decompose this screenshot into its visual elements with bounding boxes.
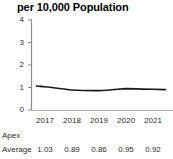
average-value-2019: 0.86 [85,143,113,156]
average-value-2020: 0.95 [112,143,140,156]
chart-card: per 10,000 Population 4 3 2 1 0 2017 201… [0,0,173,159]
x-tick-label-2020: 2020 [112,116,140,126]
y-tick-label-2: 2 [12,61,24,69]
table-row: Average 1.03 0.89 0.86 0.95 0.92 [0,143,173,157]
plot-area: 4 3 2 1 0 [0,14,173,114]
line-chart-plot [0,14,173,114]
x-tick-label-2019: 2019 [85,116,113,126]
y-tick-label-1: 1 [12,84,24,92]
x-tick-label-2021: 2021 [139,116,167,126]
table-row: Apex [0,129,173,143]
y-tick-label-4: 4 [12,16,24,24]
x-tick-label-2018: 2018 [58,116,86,126]
x-tick-label-2017: 2017 [31,116,59,126]
page-title: per 10,000 Population [17,0,167,14]
row-label-apex: Apex [2,129,32,142]
y-tick-label-3: 3 [12,39,24,47]
series-line-average [37,86,166,91]
average-value-2017: 1.03 [31,143,59,156]
average-value-2021: 0.92 [139,143,167,156]
x-axis-labels: 2017 2018 2019 2020 2021 [31,116,173,127]
row-label-average: Average [2,143,32,156]
average-value-2018: 0.89 [58,143,86,156]
data-table: Apex Average 1.03 0.89 0.86 0.95 0.92 [0,129,173,159]
y-tick-label-0: 0 [12,106,24,114]
